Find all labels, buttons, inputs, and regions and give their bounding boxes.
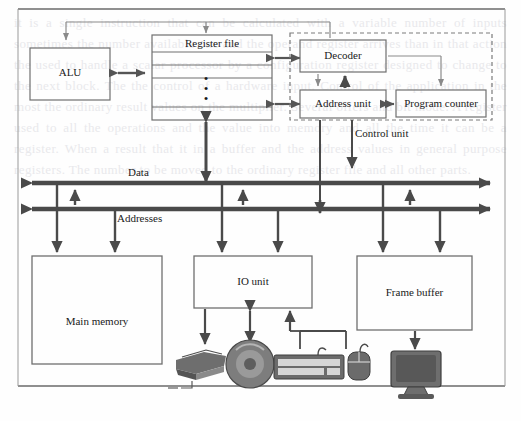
keyboard-icon bbox=[274, 348, 344, 379]
monitor-icon bbox=[391, 351, 441, 399]
data-bus-label: Data bbox=[128, 166, 149, 178]
program-counter-label: Program counter bbox=[396, 97, 486, 109]
decoder-label: Decoder bbox=[300, 49, 386, 61]
bus-to-frame-buffer bbox=[383, 183, 440, 252]
register-file-label: Register file bbox=[152, 37, 272, 49]
decoder-to-programcounter bbox=[388, 56, 441, 86]
bus-to-main-memory bbox=[57, 183, 115, 252]
register-file-ellipsis: • • • bbox=[196, 74, 216, 104]
bus-interconnects bbox=[75, 190, 410, 205]
printer-icon bbox=[168, 350, 226, 388]
control-unit-label: Control unit bbox=[355, 127, 408, 139]
ellipsis-dot-3: • bbox=[204, 91, 209, 106]
mouse-icon bbox=[348, 344, 370, 380]
io-unit-label: IO unit bbox=[194, 275, 312, 287]
architecture-figure: it is a single instruction that can be c… bbox=[0, 0, 521, 421]
main-memory-box bbox=[32, 256, 162, 364]
bus-to-io-unit bbox=[222, 183, 278, 252]
alu-label: ALU bbox=[30, 66, 110, 78]
frame-buffer-label: Frame buffer bbox=[357, 286, 472, 298]
address-unit-label: Address unit bbox=[300, 97, 386, 109]
input-devices-to-iounit bbox=[290, 311, 346, 349]
main-memory-label: Main memory bbox=[32, 315, 162, 327]
addressunit-control-lines bbox=[320, 120, 352, 213]
diagram-canvas bbox=[0, 0, 521, 421]
addresses-bus-label: Addresses bbox=[117, 212, 162, 224]
optical-disc-icon bbox=[226, 340, 274, 388]
